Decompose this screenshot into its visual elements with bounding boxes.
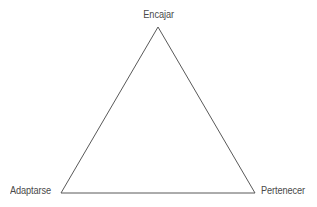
node-label-apex-text: Encajar bbox=[143, 9, 174, 21]
triangle-outline bbox=[0, 0, 317, 207]
triangle-shape bbox=[61, 27, 255, 193]
node-label-apex: Encajar bbox=[0, 9, 317, 21]
triangle-diagram: Encajar Adaptarse Pertenecer bbox=[0, 0, 317, 207]
node-label-bottom-left: Adaptarse bbox=[10, 185, 51, 197]
node-label-bottom-right: Pertenecer bbox=[261, 185, 305, 197]
